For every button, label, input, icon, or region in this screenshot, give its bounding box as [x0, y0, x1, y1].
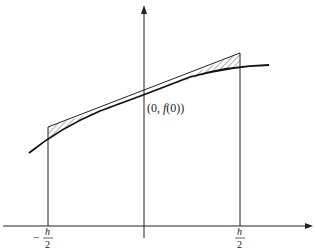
svg-text:−: − — [33, 231, 39, 243]
svg-text:2: 2 — [237, 239, 242, 250]
right-tick-label: h 2 — [235, 226, 245, 250]
x-axis-arrow-icon — [305, 223, 313, 229]
svg-text:2: 2 — [45, 239, 50, 250]
left-tick-label: − h 2 — [33, 226, 53, 250]
point-label: (0, f(0)) — [147, 101, 184, 115]
midpoint-diagram: (0, f(0)) − h 2 h 2 — [0, 0, 315, 252]
y-axis-arrow-icon — [141, 5, 147, 14]
svg-text:h: h — [45, 226, 50, 237]
svg-text:h: h — [237, 226, 242, 237]
y-axis — [141, 5, 147, 238]
left-hatched-region — [48, 96, 144, 139]
